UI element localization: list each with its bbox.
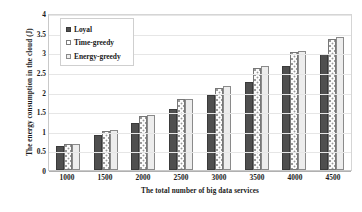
- legend-label: Loyal: [74, 25, 92, 34]
- y-axis-tick-label: 3: [20, 49, 46, 58]
- legend-swatch-icon: [66, 54, 71, 59]
- bar-time-greedy: [177, 99, 185, 170]
- bar-time-greedy: [253, 68, 261, 170]
- bar-energy-greedy: [147, 115, 155, 170]
- bar-loyal: [282, 66, 290, 170]
- gridline: [49, 152, 351, 153]
- x-axis-tick-label: 3500: [238, 173, 276, 186]
- bar-group: [207, 15, 231, 170]
- x-axis-tick-label: 4000: [276, 173, 314, 186]
- bar-group: [320, 15, 344, 170]
- axis-baseline: [49, 171, 351, 172]
- gridline: [49, 15, 351, 16]
- y-axis-tick-label: 3.5: [20, 29, 46, 38]
- bar-group: [245, 15, 269, 170]
- legend-label: Time-greedy: [74, 38, 114, 47]
- bar-loyal: [245, 82, 253, 170]
- y-axis-tick-label: 0.5: [20, 147, 46, 156]
- x-axis-title: The total number of big data services: [48, 187, 352, 195]
- bar-time-greedy: [139, 116, 147, 170]
- bar-chart: The energy consumption in the cloud (J) …: [0, 0, 362, 212]
- x-axis-tick-label: 1500: [86, 173, 124, 186]
- y-axis-tick-label: 4: [20, 10, 46, 19]
- y-axis-tick-labels: 00.511.522.533.54: [20, 14, 46, 171]
- x-axis-tick-label: 2500: [162, 173, 200, 186]
- bar-energy-greedy: [223, 86, 231, 170]
- x-axis-tick-label: 1000: [48, 173, 86, 186]
- x-axis-tick-label: 4500: [314, 173, 352, 186]
- bar-energy-greedy: [110, 130, 118, 170]
- y-axis-tick-label: 0: [20, 167, 46, 176]
- bar-group: [169, 15, 193, 170]
- x-axis-tick-labels: 10001500200025003000350040004500: [48, 173, 352, 186]
- y-axis-tick-label: 2.5: [20, 68, 46, 77]
- bar-energy-greedy: [336, 37, 344, 170]
- bar-energy-greedy: [261, 66, 269, 170]
- bar-time-greedy: [328, 39, 336, 170]
- bar-energy-greedy: [185, 99, 193, 170]
- y-axis-tick-label: 1: [20, 127, 46, 136]
- bar-time-greedy: [64, 144, 72, 170]
- bar-time-greedy: [215, 88, 223, 170]
- gridline: [49, 133, 351, 134]
- bar-group: [131, 15, 155, 170]
- bar-loyal: [56, 146, 64, 170]
- legend-label: Energy-greedy: [74, 52, 121, 61]
- bar-group: [282, 15, 306, 170]
- gridline: [49, 94, 351, 95]
- bar-loyal: [131, 123, 139, 170]
- gridline: [49, 113, 351, 114]
- legend-swatch-icon: [66, 27, 71, 32]
- legend-swatch-icon: [66, 40, 71, 45]
- x-axis-tick-label: 3000: [200, 173, 238, 186]
- legend: LoyalTime-greedyEnergy-greedy: [60, 18, 134, 66]
- bar-energy-greedy: [72, 144, 80, 170]
- x-axis-tick-label: 2000: [124, 173, 162, 186]
- bar-loyal: [169, 109, 177, 170]
- legend-item: Energy-greedy: [66, 52, 129, 61]
- legend-item: Loyal: [66, 25, 129, 34]
- bar-time-greedy: [102, 131, 110, 170]
- y-axis-tick-label: 2: [20, 88, 46, 97]
- y-axis-tick-label: 1.5: [20, 108, 46, 117]
- legend-item: Time-greedy: [66, 38, 129, 47]
- gridline: [49, 74, 351, 75]
